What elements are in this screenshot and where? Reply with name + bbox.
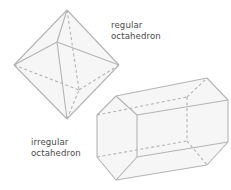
irregular-octahedron xyxy=(97,78,228,180)
label-line: octahedron xyxy=(111,31,161,42)
label-regular-octahedron: regular octahedron xyxy=(111,20,161,42)
label-irregular-octahedron: irregular octahedron xyxy=(31,137,81,159)
label-line: regular xyxy=(111,20,161,31)
label-line: octahedron xyxy=(31,148,81,159)
octahedra-diagram: regular octahedron irregular octahedron xyxy=(0,0,231,190)
label-line: irregular xyxy=(31,137,81,148)
regular-octahedron xyxy=(14,10,119,119)
